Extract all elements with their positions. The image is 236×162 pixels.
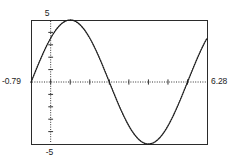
x-max-label: 6.28 [211, 77, 227, 86]
sine-wave-plot-figure: 5 -5 -0.79 6.28 [0, 0, 236, 162]
y-max-label: 5 [45, 9, 50, 18]
y-min-label: -5 [46, 148, 53, 157]
plot-canvas [0, 0, 236, 162]
x-min-label: -0.79 [2, 77, 21, 86]
